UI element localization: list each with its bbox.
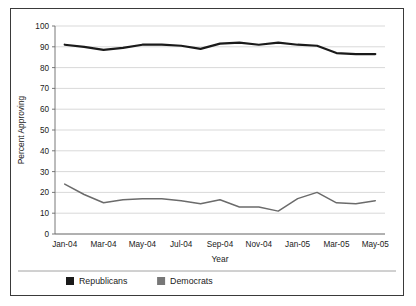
x-tick-label: Jul-04: [170, 240, 193, 249]
line-chart: 0102030405060708090100 Jan-04Mar-04May-0…: [0, 0, 416, 306]
y-tick-label: 60: [40, 105, 50, 114]
y-tick-label: 10: [40, 209, 50, 218]
series-line-democrats: [65, 184, 376, 211]
y-tick-label: 0: [44, 230, 49, 239]
y-tick-label: 70: [40, 84, 50, 93]
y-axis-tick-labels: 0102030405060708090100: [35, 22, 55, 239]
legend-label: Republicans: [79, 276, 128, 286]
legend-swatch: [66, 277, 74, 285]
x-axis-tick-labels: Jan-04Mar-04May-04Jul-04Sep-04Nov-04Jan-…: [52, 240, 389, 249]
chart-figure: 0102030405060708090100 Jan-04Mar-04May-0…: [0, 0, 416, 306]
y-tick-label: 90: [40, 43, 50, 52]
legend-label: Democrats: [170, 276, 213, 286]
x-tick-label: Sep-04: [207, 240, 234, 249]
x-tick-label: Mar-04: [91, 240, 117, 249]
y-tick-label: 80: [40, 64, 50, 73]
y-tick-label: 50: [40, 126, 50, 135]
series-line-republicans: [65, 43, 376, 54]
legend-swatch: [157, 277, 165, 285]
x-tick-label: Jan-05: [285, 240, 310, 249]
x-tick-label: May-05: [362, 240, 390, 249]
x-tick-label: May-04: [129, 240, 157, 249]
x-tick-label: Jan-04: [52, 240, 77, 249]
x-axis-title: Year: [212, 254, 229, 264]
x-tick-label: Nov-04: [246, 240, 273, 249]
y-tick-label: 100: [35, 22, 49, 31]
y-tick-label: 20: [40, 188, 50, 197]
chart-legend: RepublicansDemocrats: [66, 276, 213, 286]
x-tick-label: Mar-05: [324, 240, 350, 249]
y-axis-title: Percent Approving: [16, 95, 26, 164]
y-tick-label: 40: [40, 147, 50, 156]
y-tick-label: 30: [40, 168, 50, 177]
